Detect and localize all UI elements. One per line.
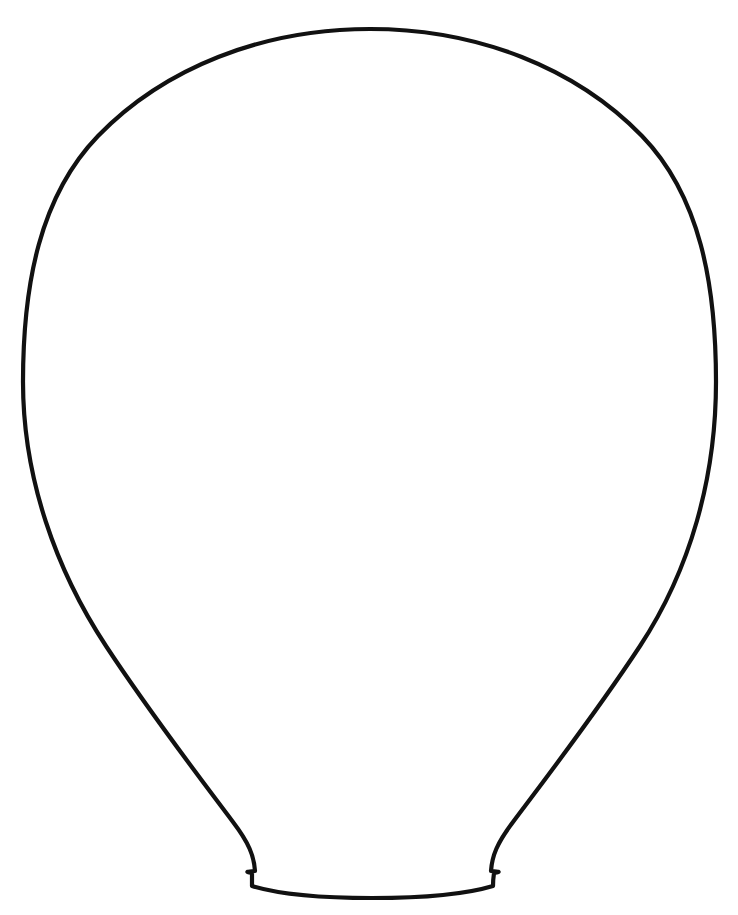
page-canvas: page (0, 0, 738, 915)
balloon-outline-illustration (0, 0, 738, 915)
